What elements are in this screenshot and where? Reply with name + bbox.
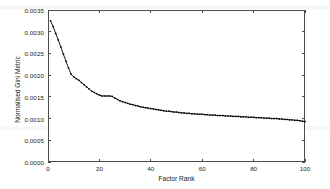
data-point-marker (145, 107, 147, 109)
data-point-marker (70, 74, 72, 76)
x-tick-mark (202, 159, 203, 162)
data-point-marker (86, 86, 88, 88)
data-point-marker (201, 113, 203, 115)
data-point-marker (58, 39, 60, 41)
data-point-marker (112, 96, 114, 98)
data-point-marker (291, 119, 293, 121)
data-point-marker (94, 92, 96, 94)
data-point-marker (76, 78, 78, 80)
data-point-marker (219, 115, 221, 117)
x-tick-mark (305, 10, 306, 13)
x-axis-tick-labels: 020406080100 (48, 165, 305, 175)
y-tick-mark (48, 53, 51, 54)
data-point-marker (78, 80, 80, 82)
y-tick-mark (302, 118, 305, 119)
data-point-marker (81, 82, 83, 84)
data-series-svg (48, 10, 305, 162)
data-point-marker (99, 94, 101, 96)
data-point-marker (286, 119, 288, 121)
data-point-marker (276, 118, 278, 120)
data-point-marker (261, 117, 263, 119)
data-point-marker (237, 116, 239, 118)
x-tick-mark (48, 159, 49, 162)
data-point-marker (147, 107, 149, 109)
data-point-marker (165, 110, 167, 112)
y-tick-label: 0.0010 (24, 115, 44, 122)
data-point-marker (279, 118, 281, 120)
x-tick-mark (253, 159, 254, 162)
data-point-marker (304, 121, 306, 123)
x-axis-label: Factor Rank (48, 175, 305, 182)
x-tick-label: 60 (199, 165, 206, 172)
y-axis-label: Normalised Gini Metric (14, 40, 21, 140)
data-point-marker (52, 26, 54, 28)
data-point-marker (104, 95, 106, 97)
y-tick-mark (302, 140, 305, 141)
data-point-marker (245, 116, 247, 118)
data-point-marker (158, 109, 160, 111)
data-point-marker (171, 111, 173, 113)
x-tick-mark (150, 10, 151, 13)
data-point-marker (163, 110, 165, 112)
data-point-marker (299, 120, 301, 122)
data-point-marker (209, 114, 211, 116)
data-point-marker (225, 115, 227, 117)
x-tick-mark (150, 159, 151, 162)
data-point-marker (227, 115, 229, 117)
y-axis-tick-labels: 0.00000.00050.00100.00150.00200.00250.00… (0, 10, 44, 162)
data-point-marker (289, 119, 291, 121)
y-tick-label: 0.0020 (24, 72, 44, 79)
data-point-marker (253, 117, 255, 119)
y-tick-mark (48, 31, 51, 32)
y-tick-mark (302, 75, 305, 76)
data-point-marker (297, 120, 299, 122)
data-point-marker (96, 93, 98, 95)
x-tick-label: 100 (300, 165, 310, 172)
data-point-marker (266, 117, 268, 119)
data-point-marker (101, 95, 103, 97)
data-point-marker (240, 116, 242, 118)
data-point-marker (258, 117, 260, 119)
chart-figure: 0.00000.00050.00100.00150.00200.00250.00… (0, 0, 330, 189)
data-point-marker (271, 118, 273, 120)
data-point-marker (255, 117, 256, 119)
data-point-marker (281, 118, 283, 120)
data-point-marker (248, 117, 250, 119)
x-tick-mark (253, 10, 254, 13)
data-point-marker (268, 117, 270, 119)
x-tick-label: 80 (250, 165, 257, 172)
y-tick-mark (48, 118, 51, 119)
data-point-marker (109, 95, 111, 97)
data-point-marker (73, 76, 75, 78)
data-point-marker (191, 113, 193, 115)
data-point-marker (50, 20, 52, 22)
data-point-marker (232, 116, 234, 118)
data-point-marker (230, 115, 232, 117)
y-tick-mark (48, 75, 51, 76)
data-point-marker (199, 113, 201, 115)
data-point-marker (127, 103, 129, 105)
data-point-marker (91, 90, 93, 92)
data-point-marker (55, 33, 57, 35)
data-point-marker (273, 118, 275, 120)
x-tick-mark (99, 159, 100, 162)
data-point-marker (183, 112, 185, 114)
y-tick-label: 0.0025 (24, 50, 44, 57)
x-tick-label: 0 (46, 165, 49, 172)
y-tick-mark (48, 96, 51, 97)
data-point-marker (243, 116, 245, 118)
data-point-marker (186, 113, 188, 115)
data-point-marker (132, 104, 134, 106)
data-point-marker (302, 120, 304, 122)
x-tick-label: 40 (147, 165, 154, 172)
data-point-marker (181, 112, 183, 114)
data-point-marker (160, 110, 162, 112)
data-point-marker (65, 61, 67, 63)
data-point-marker (106, 95, 108, 97)
data-point-marker (284, 119, 286, 121)
data-point-marker (235, 116, 237, 118)
data-point-marker (189, 113, 191, 115)
data-point-marker (124, 102, 126, 104)
data-point-marker (68, 67, 70, 69)
data-point-marker (63, 54, 65, 56)
